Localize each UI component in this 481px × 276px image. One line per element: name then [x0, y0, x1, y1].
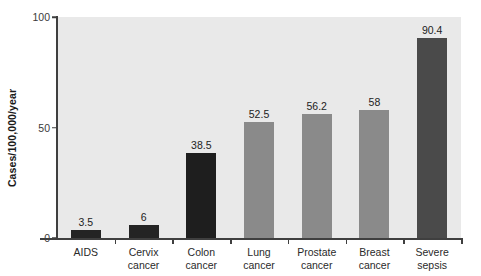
x-axis-tick-mark: [115, 238, 117, 244]
y-axis-tick-label: 50: [20, 122, 50, 134]
bar[interactable]: [71, 230, 101, 238]
x-axis-tick-mark: [172, 238, 174, 244]
y-axis-tick-label: 100: [20, 11, 50, 23]
y-axis-title-text: Cases/100,000/year: [6, 89, 18, 187]
x-axis-category-label-line2: sepsis: [398, 259, 466, 272]
bar-value-label: 90.4: [402, 24, 462, 36]
x-axis-tick-mark: [346, 238, 348, 244]
bar[interactable]: [417, 38, 447, 238]
x-axis-category-label-line1: Cervix: [129, 246, 159, 258]
y-axis-line: [56, 16, 58, 239]
x-axis-category-label-line1: Severe: [416, 246, 449, 258]
x-axis-category-label: Severesepsis: [398, 246, 466, 272]
bar-chart: Cases/100,000/year 050100 3.5638.552.556…: [0, 0, 481, 276]
bar[interactable]: [186, 153, 216, 238]
bar-value-label: 52.5: [229, 108, 289, 120]
bar[interactable]: [129, 225, 159, 238]
bar-value-label: 38.5: [171, 139, 231, 151]
y-axis-tick-labels: 050100: [20, 0, 50, 276]
bar-value-label: 6: [114, 211, 174, 223]
x-axis-tick-mark: [461, 238, 463, 244]
bar-value-label: 58: [344, 96, 404, 108]
x-axis-line: [40, 238, 461, 240]
bar-value-label: 3.5: [56, 216, 116, 228]
x-axis-category-label-line1: Prostate: [297, 246, 336, 258]
x-axis-category-label-line1: Lung: [247, 246, 270, 258]
bar-value-label: 56.2: [287, 100, 347, 112]
x-axis-tick-mark: [288, 238, 290, 244]
x-axis-category-label-line1: Breast: [359, 246, 389, 258]
x-axis-category-label-line1: Colon: [188, 246, 215, 258]
x-axis-tick-mark: [230, 238, 232, 244]
bar[interactable]: [302, 114, 332, 238]
x-axis-tick-mark: [403, 238, 405, 244]
bar[interactable]: [359, 110, 389, 238]
x-axis-category-label-line1: AIDS: [74, 246, 99, 258]
bar[interactable]: [244, 122, 274, 238]
